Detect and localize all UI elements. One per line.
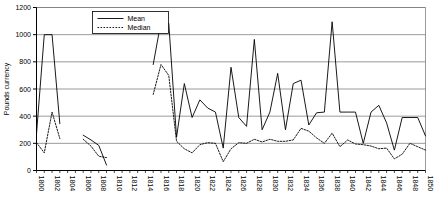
x-tick-label-1830: 1830 <box>272 176 279 192</box>
x-tick-label-1828: 1828 <box>256 176 263 192</box>
x-tick-label-1842: 1842 <box>365 176 372 192</box>
x-tick-label-1816: 1816 <box>163 176 170 192</box>
y-tick-label-1200: 1200 <box>15 4 31 11</box>
x-tick-label-1850: 1850 <box>427 176 434 192</box>
y-tick-label-800: 800 <box>19 58 31 65</box>
x-tick-label-1820: 1820 <box>194 176 201 192</box>
x-tick-label-1846: 1846 <box>396 176 403 192</box>
legend-label-mean: Mean <box>128 15 146 22</box>
y-tick-label-600: 600 <box>19 86 31 93</box>
x-tick-label-1810: 1810 <box>116 176 123 192</box>
x-tick-label-1822: 1822 <box>209 176 216 192</box>
x-tick-label-1836: 1836 <box>318 176 325 192</box>
x-tick-label-1800: 1800 <box>38 176 45 192</box>
y-tick-label-400: 400 <box>19 113 31 120</box>
x-tick-label-1806: 1806 <box>85 176 92 192</box>
y-tick-label-0: 0 <box>27 167 31 174</box>
x-tick-label-1804: 1804 <box>69 176 76 192</box>
legend-label-median: Median <box>128 24 151 31</box>
chart-container: 020040060080010001200Pounds currency1800… <box>0 0 434 213</box>
x-tick-label-1802: 1802 <box>54 176 61 192</box>
x-tick-label-1848: 1848 <box>412 176 419 192</box>
x-axis-ticks: 1800180218041806180818101812181418161818… <box>37 171 434 192</box>
x-tick-label-1826: 1826 <box>240 176 247 192</box>
x-tick-label-1808: 1808 <box>100 176 107 192</box>
x-tick-label-1824: 1824 <box>225 176 232 192</box>
x-tick-label-1840: 1840 <box>349 176 356 192</box>
x-tick-label-1812: 1812 <box>131 176 138 192</box>
y-tick-label-1000: 1000 <box>15 31 31 38</box>
x-tick-label-1838: 1838 <box>334 176 341 192</box>
legend: MeanMedian <box>93 12 169 34</box>
x-tick-label-1834: 1834 <box>303 176 310 192</box>
x-tick-label-1844: 1844 <box>380 176 387 192</box>
y-axis-title: Pounds currency <box>3 62 11 115</box>
x-tick-label-1832: 1832 <box>287 176 294 192</box>
y-tick-label-200: 200 <box>19 140 31 147</box>
y-axis-ticks: 020040060080010001200 <box>15 4 36 174</box>
x-tick-label-1818: 1818 <box>178 176 185 192</box>
x-tick-label-1814: 1814 <box>147 176 154 192</box>
line-chart: 020040060080010001200Pounds currency1800… <box>0 0 434 213</box>
